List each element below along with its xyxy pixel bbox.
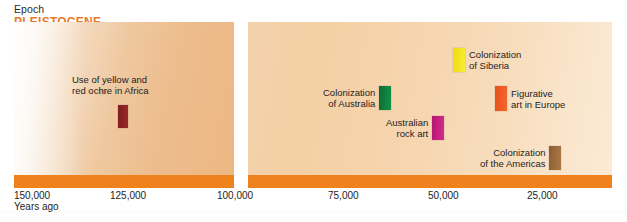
event-marker-colonization-americas xyxy=(549,146,561,170)
axis-bar-left xyxy=(14,175,234,188)
event-figurative-art-europe: Figurative art in Europe xyxy=(495,86,565,111)
event-australian-rock-art: Australian rock art xyxy=(386,116,444,140)
event-marker-figurative-art-europe xyxy=(495,86,507,111)
pleistocene-timeline: Epoch PLEISTOCENE Use of yellow and red … xyxy=(0,0,627,222)
epoch-label: Epoch xyxy=(14,3,101,15)
axis-tick-50000: 50,000 xyxy=(428,190,459,202)
event-label: Use of yellow and red ochre in Africa xyxy=(72,74,149,96)
axis-tick-100000: 100,000 xyxy=(217,190,253,202)
axis-tick-75000: 75,000 xyxy=(328,190,359,202)
event-colonization-americas: Colonization of the Americas xyxy=(480,146,561,170)
panel-left-background: Use of yellow and red ochre in Africa xyxy=(14,22,234,175)
event-label: Figurative art in Europe xyxy=(511,88,565,110)
event-label: Colonization of the Americas xyxy=(480,147,545,169)
axis-unit-label: Years ago xyxy=(14,201,59,213)
event-colonization-australia: Colonization of Australia xyxy=(323,86,391,110)
event-ochre-africa: Use of yellow and red ochre in Africa xyxy=(72,74,149,128)
timeline-panel-left: Use of yellow and red ochre in Africa xyxy=(14,22,234,188)
axis-tick-125000: 125,000 xyxy=(110,190,146,202)
axis-tick-25000: 25,000 xyxy=(527,190,558,202)
axis-bar-right xyxy=(248,175,612,188)
timeline-axis: 150,000 125,000 100,000 75,000 50,000 25… xyxy=(0,190,627,220)
event-marker-ochre-africa xyxy=(118,105,128,128)
event-marker-colonization-australia xyxy=(379,86,391,110)
event-label: Australian rock art xyxy=(386,117,428,139)
event-label: Colonization of Siberia xyxy=(469,49,521,71)
panel-right-background: Colonization of Australia Colonization o… xyxy=(248,22,612,175)
event-colonization-siberia: Colonization of Siberia xyxy=(453,48,521,72)
event-marker-australian-rock-art xyxy=(432,116,444,140)
event-marker-colonization-siberia xyxy=(453,48,465,72)
event-label: Colonization of Australia xyxy=(323,87,375,109)
timeline-panel-right: Colonization of Australia Colonization o… xyxy=(248,22,612,188)
